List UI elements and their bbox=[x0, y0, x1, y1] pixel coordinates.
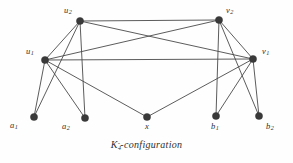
k4-minus-configuration-figure: u2v2u1v1a1a2xb1b2 K4--configuration bbox=[0, 0, 293, 163]
graph-edge bbox=[45, 59, 253, 60]
edges-group bbox=[34, 20, 259, 118]
graph-vertex-x bbox=[143, 113, 150, 120]
vertex-label-x: x bbox=[145, 122, 149, 131]
vertex-label-v2: v2 bbox=[226, 6, 234, 15]
vertex-label-b2: b2 bbox=[266, 122, 274, 131]
graph-edge bbox=[253, 59, 259, 116]
vertex-label-a1: a1 bbox=[10, 121, 18, 130]
graph-vertex-u2 bbox=[76, 17, 83, 24]
graph-vertex-u1 bbox=[41, 56, 48, 63]
graph-edge bbox=[34, 21, 80, 117]
graph-vertex-a2 bbox=[81, 114, 88, 121]
vertex-label-v1: v1 bbox=[262, 47, 270, 56]
graph-edge bbox=[219, 20, 253, 59]
vertex-label-u2: u2 bbox=[64, 6, 72, 15]
graph-vertex-v1 bbox=[249, 55, 256, 62]
graph-edge bbox=[34, 60, 45, 117]
graph-edge bbox=[80, 21, 85, 118]
vertex-label-b1: b1 bbox=[211, 122, 219, 131]
graph-vertex-v2 bbox=[215, 16, 222, 23]
caption-symbol: K bbox=[111, 139, 118, 150]
graph-edge bbox=[45, 21, 80, 60]
vertex-label-a2: a2 bbox=[62, 122, 70, 131]
graph-edge bbox=[45, 60, 85, 118]
graph-edge bbox=[147, 59, 253, 117]
graph-vertex-b2 bbox=[255, 112, 262, 119]
caption-text: -configuration bbox=[120, 139, 182, 150]
vertex-label-u1: u1 bbox=[26, 47, 34, 56]
figure-caption: K4--configuration bbox=[0, 139, 293, 150]
graph-edge bbox=[45, 60, 147, 117]
graph-edge bbox=[216, 20, 219, 116]
graph-vertex-b1 bbox=[212, 112, 219, 119]
graph-edge bbox=[80, 20, 219, 21]
graph-vertex-a1 bbox=[30, 113, 37, 120]
vertices-group bbox=[30, 16, 262, 121]
